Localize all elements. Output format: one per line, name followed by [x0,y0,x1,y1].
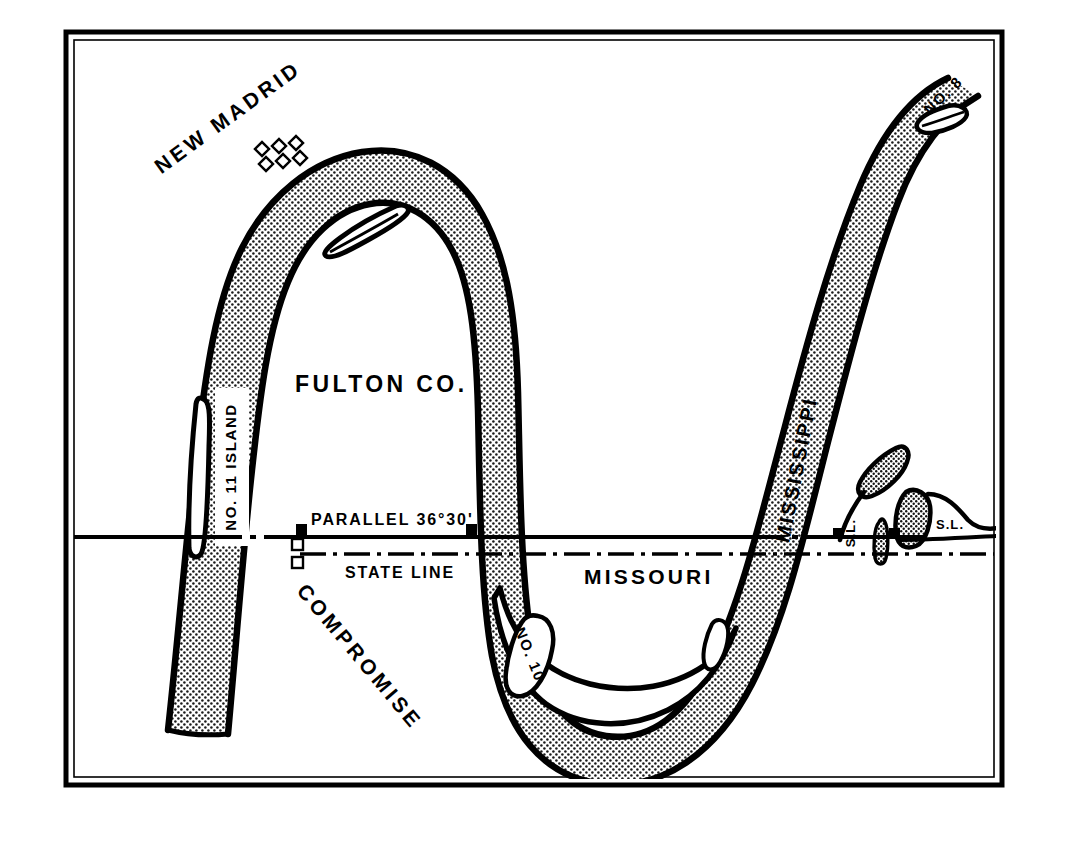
town-symbol [259,157,273,171]
oxbow-lake-upper [858,447,908,497]
island-no-11 [189,388,249,557]
boundary-monument-far-east [889,528,900,539]
town-symbol [276,154,290,168]
town-symbol [289,136,303,150]
label-fulton-co: FULTON CO. [295,371,467,397]
label-parallel-36-30: PARALLEL 36°30' [311,511,474,528]
map-canvas: NEW MADRID FULTON CO. MISSOURI MISSISSIP… [0,0,1068,844]
map-figure: NEW MADRID FULTON CO. MISSOURI MISSISSIP… [0,0,1068,844]
compromise-monument-lower [292,557,303,568]
oxbow-sliver [874,519,888,564]
label-missouri: MISSOURI [584,565,713,588]
town-symbol [272,139,286,153]
boundary-monument-west [296,524,307,535]
label-no-11-island: NO. 11 ISLAND [222,403,239,531]
label-sl-east: S.L. [936,517,964,532]
town-symbol [293,151,307,165]
label-sl-west: S.L. [843,519,858,547]
label-compromise: COMPROMISE [293,579,428,733]
label-state-line: STATE LINE [345,564,455,581]
boundary-monument-east [833,528,844,539]
town-symbol [255,142,269,156]
new-madrid-town-symbols [255,136,307,171]
oxbow-lakes-east [840,447,998,564]
island-no-11-shape [189,398,210,557]
compromise-monument-upper [292,539,303,550]
